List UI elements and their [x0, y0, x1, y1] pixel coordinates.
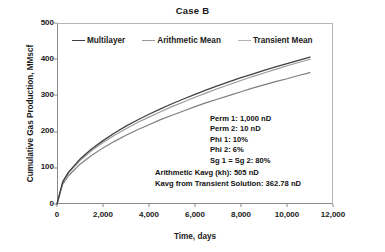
annotation-line: Perm 2: 10 nD — [210, 124, 271, 134]
legend-swatch-transient-mean — [238, 40, 251, 41]
annotation-line: Sg 1 = Sg 2: 80% — [210, 156, 271, 166]
annotation-line: Phi 2: 6% — [210, 145, 271, 155]
legend-label-multilayer: Multilayer — [87, 36, 125, 45]
legend-swatch-arithmetic-mean — [142, 40, 155, 41]
legend-label-arithmetic-mean: Arithmetic Mean — [157, 36, 221, 45]
annotation-line: Kavg from Transient Solution: 362.78 nD — [155, 178, 301, 189]
legend-swatch-multilayer — [72, 40, 85, 41]
annotation-line: Phi 1: 10% — [210, 135, 271, 145]
legend-label-transient-mean: Transient Mean — [253, 36, 313, 45]
legend-item-transient-mean: Transient Mean — [238, 36, 313, 45]
annotation-line: Arithmetic Kavg (kh): 505 nD — [155, 167, 301, 178]
chart-container: Case B Cumulative Gas Production, MMscf … — [0, 0, 385, 252]
legend-item-arithmetic-mean: Arithmetic Mean — [142, 36, 221, 45]
annotation-kavg: Arithmetic Kavg (kh): 505 nD Kavg from T… — [155, 167, 301, 189]
annotation-parameters: Perm 1: 1,000 nD Perm 2: 10 nD Phi 1: 10… — [210, 114, 271, 166]
legend-item-multilayer: Multilayer — [72, 36, 125, 45]
annotation-line: Perm 1: 1,000 nD — [210, 114, 271, 124]
chart-legend: Multilayer Arithmetic Mean Transient Mea… — [72, 36, 352, 45]
x-axis-title: Time, days — [57, 232, 333, 241]
